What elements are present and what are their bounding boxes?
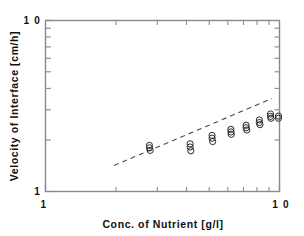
log-log-scatter-chart: 1 0 1 1 1 0 Conc. of Nutrient [g/l] Velo… bbox=[0, 0, 304, 236]
x-axis-tick-left: 1 bbox=[41, 199, 48, 210]
figure-container: 1 0 1 1 1 0 Conc. of Nutrient [g/l] Velo… bbox=[0, 0, 304, 236]
y-axis-tick-top: 1 0 bbox=[23, 15, 41, 26]
y-axis-tick-bottom: 1 bbox=[34, 186, 41, 197]
x-axis-tick-right: 1 0 bbox=[272, 199, 290, 210]
y-axis-title: Velocity of Interface [cm/h] bbox=[8, 31, 20, 181]
x-axis-title: Conc. of Nutrient [g/l] bbox=[102, 218, 223, 230]
